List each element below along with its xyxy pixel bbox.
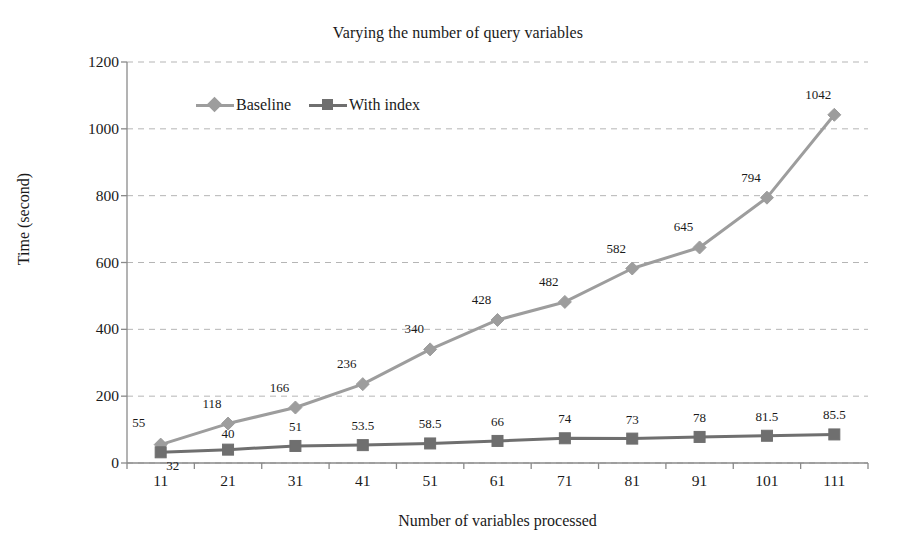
legend-label-with-index: With index <box>349 96 420 114</box>
data-point-label: 53.5 <box>333 418 393 434</box>
x-axis-tick-label: 31 <box>260 472 330 490</box>
y-axis-tick-label: 200 <box>59 387 119 405</box>
x-axis-tick-label: 81 <box>597 472 667 490</box>
legend-item-with-index[interactable]: With index <box>309 96 420 114</box>
y-axis-tick-marks <box>121 62 127 463</box>
legend-item-baseline[interactable]: Baseline <box>196 96 291 114</box>
legend-label-baseline: Baseline <box>236 96 291 114</box>
y-axis-tick-label: 1000 <box>59 120 119 138</box>
data-point-label: 582 <box>586 241 646 257</box>
data-point-label: 78 <box>670 410 730 426</box>
data-point-label: 166 <box>249 380 309 396</box>
x-axis-tick-label: 61 <box>463 472 533 490</box>
chart-figure: Varying the number of query variables Ti… <box>0 0 916 550</box>
y-axis-title: Time (second) <box>15 119 33 319</box>
x-axis-tick-label: 101 <box>732 472 802 490</box>
legend-marker-square-icon <box>309 98 347 112</box>
plot-area <box>0 0 916 550</box>
x-axis-title: Number of variables processed <box>127 512 868 530</box>
x-axis-tick-label: 11 <box>126 472 196 490</box>
chart-title: Varying the number of query variables <box>0 24 916 42</box>
x-axis-tick-label: 21 <box>193 472 263 490</box>
data-point-label: 118 <box>182 396 242 412</box>
y-axis-tick-label: 1200 <box>59 53 119 71</box>
x-axis-tick-label: 91 <box>665 472 735 490</box>
data-point-label: 340 <box>384 321 444 337</box>
x-axis-tick-marks <box>127 463 868 469</box>
data-point-label: 236 <box>317 356 377 372</box>
y-axis-tick-label: 600 <box>59 254 119 272</box>
y-axis-tick-label: 800 <box>59 187 119 205</box>
series-layer <box>154 108 841 458</box>
data-point-label: 85.5 <box>804 407 864 423</box>
data-point-label: 645 <box>654 219 714 235</box>
data-point-label: 81.5 <box>737 409 797 425</box>
y-axis-tick-label: 0 <box>59 454 119 472</box>
y-axis-tick-label: 400 <box>59 320 119 338</box>
x-axis-tick-label: 51 <box>395 472 465 490</box>
data-point-label: 794 <box>721 170 781 186</box>
data-point-label: 55 <box>109 415 169 431</box>
x-axis-tick-label: 111 <box>799 472 869 490</box>
data-point-label: 428 <box>452 292 512 308</box>
data-point-label: 66 <box>468 414 528 430</box>
x-axis-tick-label: 41 <box>328 472 398 490</box>
legend-marker-diamond-icon <box>196 98 234 112</box>
data-point-label: 32 <box>143 458 203 474</box>
data-point-label: 1042 <box>788 87 848 103</box>
data-point-label: 40 <box>198 426 258 442</box>
chart-legend: Baseline With index <box>196 96 420 114</box>
y-axis-tick-labels: 020040060080010001200 <box>57 0 119 550</box>
data-point-label: 51 <box>265 419 325 435</box>
data-point-label: 73 <box>602 412 662 428</box>
data-point-label: 74 <box>535 411 595 427</box>
data-point-label: 58.5 <box>400 416 460 432</box>
x-axis-tick-label: 71 <box>530 472 600 490</box>
data-point-label: 482 <box>519 274 579 290</box>
